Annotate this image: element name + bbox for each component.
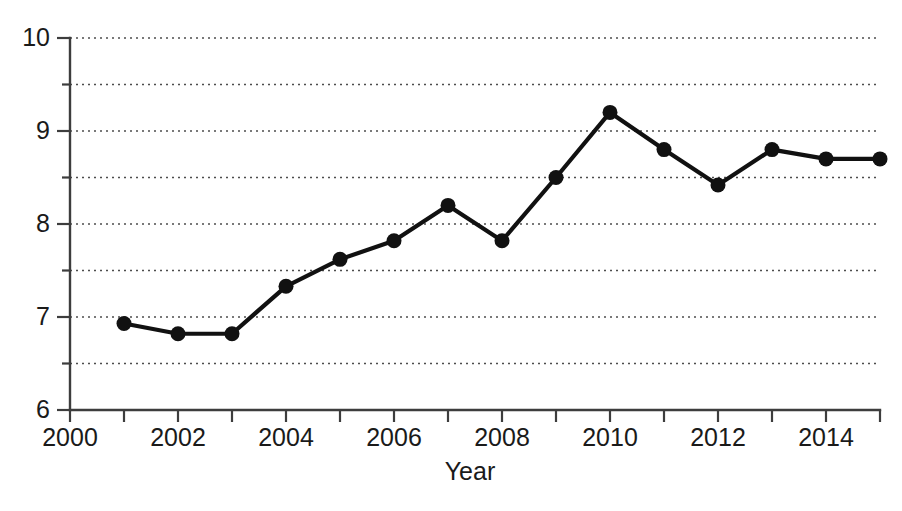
- gridlines: [70, 38, 880, 364]
- x-tick-label: 2004: [258, 423, 314, 451]
- data-point-marker: [441, 198, 456, 213]
- y-tick-label: 9: [36, 116, 50, 144]
- data-point-marker: [765, 142, 780, 157]
- x-axis-ticks: [70, 410, 880, 422]
- data-point-marker: [117, 316, 132, 331]
- data-point-marker: [711, 177, 726, 192]
- data-point-marker: [333, 252, 348, 267]
- series-markers: [117, 105, 888, 341]
- x-axis-tick-labels: 20002002200420062008201020122014: [42, 423, 854, 451]
- data-point-marker: [603, 105, 618, 120]
- x-tick-label: 2008: [474, 423, 530, 451]
- y-tick-label: 7: [36, 302, 50, 330]
- data-point-marker: [171, 326, 186, 341]
- x-tick-label: 2002: [150, 423, 206, 451]
- y-tick-label: 10: [22, 23, 50, 51]
- data-point-marker: [279, 279, 294, 294]
- x-tick-label: 2014: [798, 423, 854, 451]
- data-point-marker: [873, 151, 888, 166]
- x-tick-label: 2006: [366, 423, 422, 451]
- data-point-marker: [387, 233, 402, 248]
- x-tick-label: 2012: [690, 423, 746, 451]
- chart-canvas: 678910 20002002200420062008201020122014 …: [0, 0, 902, 511]
- data-point-marker: [819, 151, 834, 166]
- data-point-marker: [225, 326, 240, 341]
- x-tick-label: 2000: [42, 423, 98, 451]
- line-chart: 678910 20002002200420062008201020122014 …: [0, 0, 902, 511]
- y-tick-label: 6: [36, 395, 50, 423]
- x-tick-label: 2010: [582, 423, 638, 451]
- y-axis-ticks: [57, 38, 70, 410]
- y-axis-tick-labels: 678910: [22, 23, 50, 423]
- data-series: [117, 105, 888, 341]
- y-tick-label: 8: [36, 209, 50, 237]
- x-axis-title: Year: [445, 457, 496, 485]
- data-point-marker: [549, 170, 564, 185]
- data-point-marker: [495, 233, 510, 248]
- data-point-marker: [657, 142, 672, 157]
